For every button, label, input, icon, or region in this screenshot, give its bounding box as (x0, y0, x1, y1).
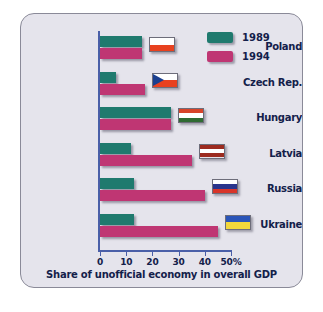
bar-1989-ukraine (100, 214, 134, 225)
flag-stripe (213, 189, 237, 193)
legend-swatch (207, 32, 233, 43)
bar-1994-russia (100, 190, 205, 201)
category-label: Hungary (230, 112, 302, 123)
flag-hungary-icon (178, 108, 204, 123)
category-label: Czech Rep. (230, 77, 302, 88)
x-tick (126, 250, 127, 256)
bar-1994-hungary (100, 119, 171, 130)
flag-stripe (150, 45, 174, 52)
category-label: Russia (230, 183, 302, 194)
bar-1994-latvia (100, 155, 192, 166)
flag-poland-icon (149, 37, 175, 52)
flag-stripe (200, 153, 224, 158)
x-axis-line (98, 250, 232, 252)
legend-item-1989: 1989 (207, 32, 270, 43)
flag-latvia-icon (199, 144, 225, 159)
x-tick (100, 250, 101, 256)
bar-1994-poland (100, 48, 142, 59)
bar-1994-czech-rep (100, 84, 145, 95)
plot-area: 01020304050% PolandCzech Rep.HungaryLatv… (21, 14, 302, 287)
flag-stripe (179, 118, 203, 122)
x-tick (231, 250, 232, 256)
legend-label: 1989 (242, 32, 270, 43)
bar-1989-poland (100, 36, 142, 47)
bar-1989-latvia (100, 143, 131, 154)
x-tick-label: 0 (97, 257, 103, 267)
bar-1994-ukraine (100, 226, 218, 237)
legend-item-1994: 1994 (207, 51, 270, 62)
bar-1989-russia (100, 178, 134, 189)
x-tick (179, 250, 180, 256)
x-tick-label: 20 (146, 257, 158, 267)
x-tick-label: 30 (173, 257, 185, 267)
legend: 19891994 (207, 32, 270, 70)
bar-1989-hungary (100, 107, 171, 118)
x-axis-title: Share of unofficial economy in overall G… (21, 269, 302, 280)
flag-triangle (153, 74, 164, 86)
flag-czech-icon (152, 73, 178, 88)
x-tick-label: 10 (120, 257, 132, 267)
flag-ukraine-icon (225, 215, 251, 230)
x-tick-label: 50% (221, 257, 242, 267)
bar-1989-czech-rep (100, 72, 116, 83)
flag-russia-icon (212, 179, 238, 194)
x-tick-label: 40 (199, 257, 211, 267)
flag-stripe (226, 222, 250, 229)
x-tick (152, 250, 153, 256)
legend-swatch (207, 51, 233, 62)
legend-label: 1994 (242, 51, 270, 62)
x-tick (205, 250, 206, 256)
chart-panel: 01020304050% PolandCzech Rep.HungaryLatv… (20, 13, 303, 288)
category-label: Latvia (230, 148, 302, 159)
